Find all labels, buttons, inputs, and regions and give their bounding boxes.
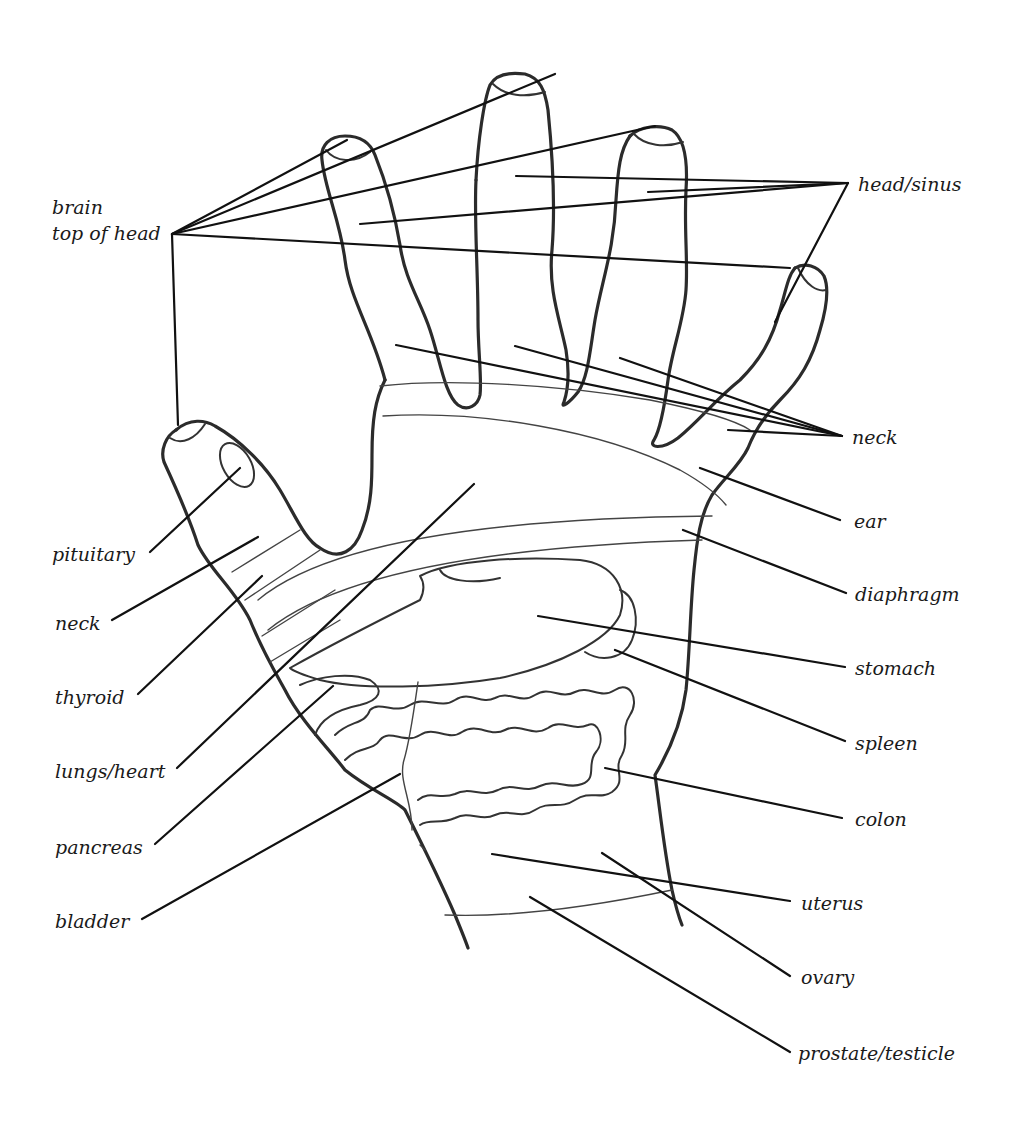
label-top-of-head: top of head	[52, 222, 161, 244]
label-head-sinus: head/sinus	[858, 173, 961, 195]
label-thyroid: thyroid	[55, 686, 124, 708]
label-pancreas: pancreas	[55, 836, 143, 858]
little-finger-outline	[655, 265, 827, 925]
label-prostate-testicle: prostate/testicle	[798, 1042, 955, 1064]
hand-outline	[163, 73, 827, 948]
label-ovary: ovary	[801, 966, 854, 988]
thumb-outline	[163, 430, 468, 948]
label-spleen: spleen	[855, 732, 918, 754]
label-stomach: stomach	[855, 657, 936, 679]
pituitary-oval	[213, 437, 261, 493]
label-pituitary: pituitary	[52, 543, 135, 565]
label-brain: brain	[52, 196, 103, 218]
fingertips	[170, 84, 826, 493]
label-ear: ear	[854, 510, 886, 532]
label-diaphragm: diaphragm	[855, 583, 960, 605]
leader-lines	[112, 74, 848, 1052]
palm-zone-lines	[232, 383, 750, 662]
label-uterus: uterus	[801, 892, 863, 914]
hand-diagram	[0, 0, 1024, 1130]
label-lungs-heart: lungs/heart	[55, 760, 165, 782]
label-neck-right: neck	[852, 426, 898, 448]
spleen-shape	[585, 590, 636, 658]
label-neck-left: neck	[55, 612, 101, 634]
label-colon: colon	[855, 808, 907, 830]
colon-shape	[335, 687, 634, 825]
label-bladder: bladder	[55, 910, 129, 932]
index-finger-outline	[322, 136, 481, 408]
